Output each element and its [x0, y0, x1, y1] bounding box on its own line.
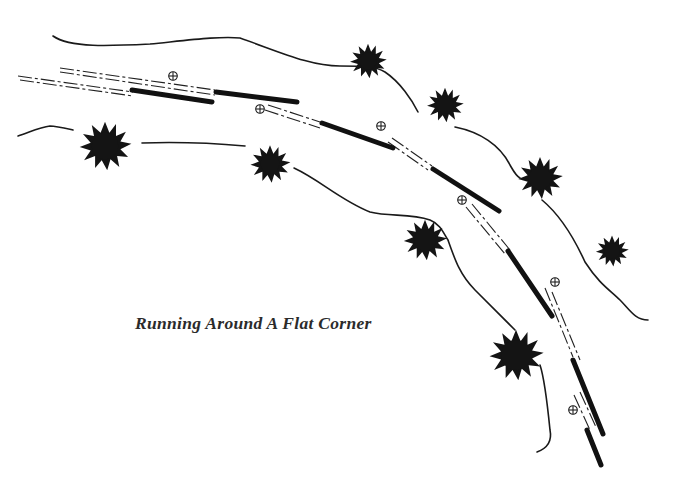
inner-trail-bank-3: [294, 168, 515, 330]
tree-icon: [250, 145, 290, 182]
inner-trail-bank-4: [537, 365, 550, 452]
outer-trail-bank-3: [542, 200, 648, 320]
pole-plant-icon: [377, 122, 386, 131]
pole-plant-icon: [551, 278, 560, 287]
tree-icon: [404, 220, 447, 260]
tree-icon: [427, 88, 464, 122]
inner-trail-bank-2: [142, 142, 245, 146]
pole-plant-icon: [569, 406, 578, 415]
outer-trail-bank: [53, 36, 418, 112]
pole-plant-icon: [458, 196, 467, 205]
diagram-caption: Running Around A Flat Corner: [135, 313, 372, 334]
diagram-stage: Running Around A Flat Corner: [0, 0, 689, 502]
outer-trail-bank-2: [455, 127, 520, 178]
tree-icon: [490, 330, 544, 381]
skis: [132, 90, 603, 465]
inner-trail-bank: [18, 126, 73, 136]
tree-icon: [596, 236, 629, 267]
pole-plant-icon: [169, 72, 178, 81]
tree-icon: [518, 157, 563, 199]
tree-icon: [80, 122, 132, 170]
pole-plant-icon: [256, 105, 265, 114]
ski-trail-diagram: [0, 0, 689, 502]
tree-icon: [350, 44, 387, 78]
